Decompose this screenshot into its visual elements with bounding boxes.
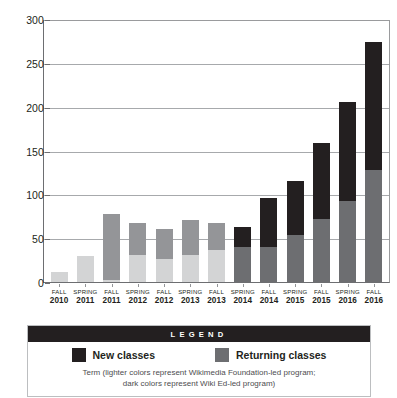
legend-item-new-classes: New classes (72, 348, 155, 362)
x-axis-label-spring-2014: SPRING2014 (230, 284, 256, 310)
legend-swatch-new-classes (72, 348, 86, 362)
y-tick-label-250: 250 (8, 58, 44, 70)
x-label-year: 2012 (151, 297, 177, 306)
x-axis: FALL2010SPRING2011FALL2011SPRING2012FALL… (43, 284, 390, 310)
y-tick-label-100: 100 (8, 189, 44, 201)
x-label-year: 2014 (256, 297, 282, 306)
y-tick-label-50: 50 (8, 233, 44, 245)
x-label-year: 2013 (177, 297, 203, 306)
y-tick-label-200: 200 (8, 102, 44, 114)
legend-caption-line2: dark colors represent Wiki Ed-led progra… (123, 379, 276, 388)
x-label-year: 2013 (203, 297, 229, 306)
legend: LEGEND New classes Returning classes Ter… (27, 325, 371, 397)
legend-label-returning-classes: Returning classes (236, 349, 326, 361)
x-label-year: 2011 (98, 297, 124, 306)
x-axis-label-spring-2012: SPRING2012 (125, 284, 151, 310)
chart-page: 050100150200250300 FALL2010SPRING2011FAL… (0, 0, 397, 398)
x-label-year: 2012 (125, 297, 151, 306)
x-label-year: 2016 (335, 297, 361, 306)
x-tick-mark (295, 284, 296, 287)
x-axis-label-fall-2016: FALL2016 (361, 284, 387, 310)
x-axis-label-fall-2012: FALL2012 (151, 284, 177, 310)
legend-swatch-returning-classes (215, 348, 229, 362)
x-label-year: 2010 (46, 297, 72, 306)
x-label-year: 2011 (72, 297, 98, 306)
x-axis-label-spring-2013: SPRING2013 (177, 284, 203, 310)
legend-item-returning-classes: Returning classes (215, 348, 326, 362)
legend-caption-line1: Term (lighter colors represent Wikimedia… (83, 368, 316, 377)
x-tick-mark (269, 284, 270, 287)
x-label-year: 2015 (308, 297, 334, 306)
x-axis-label-fall-2010: FALL2010 (46, 284, 72, 310)
x-tick-mark (321, 284, 322, 287)
x-axis-label-spring-2015: SPRING2015 (282, 284, 308, 310)
y-tick-label-300: 300 (8, 14, 44, 26)
legend-items: New classes Returning classes (28, 342, 370, 364)
legend-header: LEGEND (28, 326, 370, 342)
x-tick-mark (85, 284, 86, 287)
x-axis-label-fall-2015: FALL2015 (308, 284, 334, 310)
x-label-year: 2016 (361, 297, 387, 306)
x-tick-mark (112, 284, 113, 287)
x-tick-mark (138, 284, 139, 287)
x-axis-label-fall-2013: FALL2013 (203, 284, 229, 310)
y-tick-label-150: 150 (8, 146, 44, 158)
x-tick-mark (374, 284, 375, 287)
x-tick-mark (348, 284, 349, 287)
x-axis-label-fall-2014: FALL2014 (256, 284, 282, 310)
x-tick-mark (164, 284, 165, 287)
x-tick-mark (217, 284, 218, 287)
x-axis-label-fall-2011: FALL2011 (98, 284, 124, 310)
x-axis-label-spring-2011: SPRING2011 (72, 284, 98, 310)
x-axis-label-spring-2016: SPRING2016 (335, 284, 361, 310)
plot-frame (43, 20, 390, 283)
plot-area (43, 20, 390, 283)
legend-caption: Term (lighter colors represent Wikimedia… (28, 364, 370, 396)
x-tick-mark (190, 284, 191, 287)
y-tick-label-0: 0 (8, 277, 44, 289)
legend-label-new-classes: New classes (93, 349, 155, 361)
x-label-year: 2014 (230, 297, 256, 306)
x-label-year: 2015 (282, 297, 308, 306)
x-tick-mark (243, 284, 244, 287)
x-tick-mark (59, 284, 60, 287)
